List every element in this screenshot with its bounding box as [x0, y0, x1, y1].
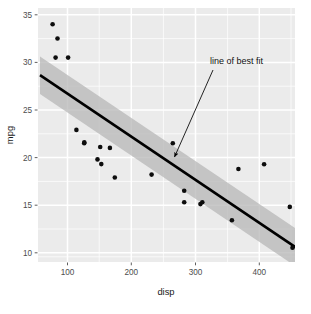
data-point — [74, 128, 79, 133]
data-point — [149, 172, 154, 177]
y-axis-title: mpg — [4, 126, 15, 144]
data-point — [50, 22, 55, 27]
data-point — [262, 162, 267, 167]
y-axis-tick-labels: 35 30 25 20 15 10 — [23, 11, 33, 258]
data-point — [99, 162, 104, 167]
data-point — [290, 246, 295, 251]
data-point — [182, 200, 187, 205]
data-point — [200, 200, 205, 205]
annotation-label-best-fit: line of best fit — [210, 56, 264, 66]
data-point — [171, 141, 176, 146]
y-tick-label: 25 — [23, 106, 33, 115]
y-tick-label: 35 — [23, 11, 33, 20]
data-point — [98, 145, 103, 150]
data-point — [66, 55, 71, 60]
data-point — [288, 205, 293, 210]
data-point — [53, 55, 58, 60]
x-tick-label: 300 — [189, 268, 203, 277]
y-tick-label: 10 — [23, 249, 33, 258]
data-point — [108, 146, 113, 151]
x-tick-label: 200 — [124, 268, 138, 277]
data-point — [236, 167, 241, 172]
y-tick-label: 15 — [23, 201, 33, 210]
data-point — [182, 189, 187, 194]
x-axis-title: disp — [157, 286, 174, 297]
scatter-plot-figure: line of best fit 35 30 25 20 15 10 — [0, 0, 311, 314]
data-point — [95, 157, 100, 162]
x-tick-label: 400 — [252, 268, 266, 277]
y-tick-label: 20 — [23, 154, 33, 163]
data-point — [55, 36, 60, 41]
x-tick-label: 100 — [61, 268, 75, 277]
data-point — [230, 218, 235, 223]
y-tick-label: 30 — [23, 58, 33, 67]
x-axis-tick-labels: 100 200 300 400 — [61, 268, 267, 277]
chart-canvas: line of best fit 35 30 25 20 15 10 — [0, 0, 311, 314]
x-axis-ticks — [68, 263, 260, 266]
data-point — [113, 175, 118, 180]
data-point — [82, 140, 87, 145]
